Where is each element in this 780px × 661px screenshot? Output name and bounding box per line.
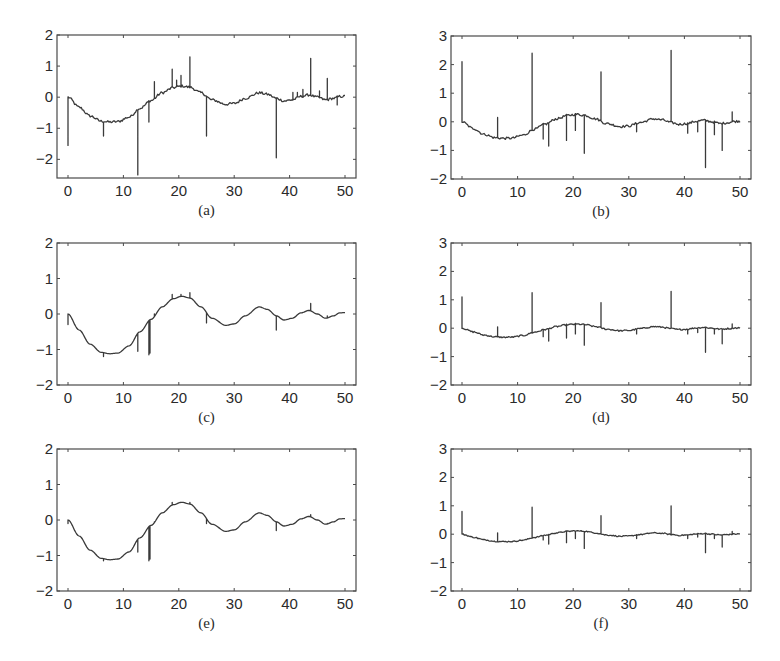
x-tick-label: 30	[620, 389, 637, 406]
y-tick-label: 0	[45, 88, 53, 105]
panel-a: 01020304050−2−1012(a)	[36, 26, 356, 219]
x-tick-label: 20	[565, 183, 582, 200]
x-tick-label: 50	[732, 183, 749, 200]
panel-caption: (e)	[198, 615, 215, 632]
data-series	[462, 291, 740, 352]
x-tick-label: 30	[620, 595, 637, 612]
y-tick-label: −2	[430, 170, 447, 187]
y-tick-label: 1	[439, 291, 447, 308]
data-series	[68, 502, 345, 561]
y-tick-label: 2	[45, 26, 53, 43]
x-tick-label: 40	[281, 595, 298, 612]
data-series	[68, 57, 345, 175]
y-tick-label: −1	[430, 554, 447, 571]
x-tick-label: 0	[64, 595, 72, 612]
y-tick-label: −1	[36, 119, 53, 136]
panel-caption: (b)	[592, 203, 610, 220]
panel-caption: (f)	[594, 615, 609, 632]
y-tick-label: 2	[439, 56, 447, 73]
y-tick-label: −1	[430, 348, 447, 365]
panel-caption: (a)	[198, 202, 215, 219]
y-tick-label: 0	[45, 305, 53, 322]
x-tick-label: 10	[509, 389, 526, 406]
data-series	[68, 293, 345, 357]
panel-c: 01020304050−2−1012(c)	[36, 234, 356, 426]
y-tick-label: 3	[439, 27, 447, 44]
y-tick-label: 1	[45, 57, 53, 74]
y-tick-label: 2	[439, 468, 447, 485]
x-tick-label: 0	[458, 389, 466, 406]
x-tick-label: 0	[64, 182, 72, 199]
y-tick-label: 1	[45, 476, 53, 493]
x-tick-label: 30	[620, 183, 637, 200]
y-tick-label: 0	[45, 511, 53, 528]
x-tick-label: 40	[676, 389, 693, 406]
x-tick-label: 40	[281, 389, 298, 406]
y-tick-label: −2	[430, 582, 447, 599]
figure: 01020304050−2−1012(a) 01020304050−2−1012…	[0, 0, 780, 661]
x-tick-label: 30	[226, 389, 243, 406]
x-tick-label: 10	[509, 595, 526, 612]
data-series	[462, 50, 740, 167]
panel-f: 01020304050−2−10123(f)	[430, 440, 751, 632]
x-tick-label: 10	[115, 389, 132, 406]
y-tick-label: 0	[439, 319, 447, 336]
data-series	[462, 506, 740, 553]
x-tick-label: 10	[115, 595, 132, 612]
x-tick-label: 0	[458, 595, 466, 612]
y-tick-label: 0	[439, 113, 447, 130]
x-tick-label: 50	[337, 182, 354, 199]
x-tick-label: 0	[458, 183, 466, 200]
x-tick-label: 50	[337, 389, 354, 406]
x-tick-label: 10	[115, 182, 132, 199]
y-tick-label: 2	[45, 440, 53, 457]
y-tick-label: 1	[45, 270, 53, 287]
y-tick-label: 1	[439, 84, 447, 101]
panel-caption: (d)	[592, 409, 610, 426]
y-tick-label: −1	[36, 341, 53, 358]
x-tick-label: 40	[281, 182, 298, 199]
panel-b: 01020304050−2−10123(b)	[430, 27, 751, 220]
x-tick-label: 40	[676, 595, 693, 612]
x-tick-label: 30	[226, 595, 243, 612]
y-tick-label: −2	[36, 150, 53, 167]
y-tick-label: 2	[439, 262, 447, 279]
y-tick-label: −2	[36, 376, 53, 393]
y-tick-label: 3	[439, 440, 447, 457]
x-tick-label: 40	[676, 183, 693, 200]
x-tick-label: 0	[64, 389, 72, 406]
y-tick-label: 0	[439, 525, 447, 542]
y-tick-label: −2	[36, 582, 53, 599]
x-tick-label: 50	[337, 595, 354, 612]
x-tick-label: 20	[565, 595, 582, 612]
x-tick-label: 50	[732, 595, 749, 612]
panel-d: 01020304050−2−10123(d)	[430, 234, 751, 426]
x-tick-label: 20	[170, 182, 187, 199]
y-tick-label: 1	[439, 497, 447, 514]
y-tick-label: 2	[45, 234, 53, 251]
x-tick-label: 20	[170, 595, 187, 612]
panel-caption: (c)	[198, 409, 215, 426]
x-tick-label: 20	[565, 389, 582, 406]
panel-e: 01020304050−2−1012(e)	[36, 440, 356, 632]
y-tick-label: 3	[439, 234, 447, 251]
y-tick-label: −1	[430, 141, 447, 158]
x-tick-label: 30	[226, 182, 243, 199]
x-tick-label: 50	[732, 389, 749, 406]
x-tick-label: 20	[170, 389, 187, 406]
y-tick-label: −1	[36, 547, 53, 564]
x-tick-label: 10	[509, 183, 526, 200]
y-tick-label: −2	[430, 376, 447, 393]
